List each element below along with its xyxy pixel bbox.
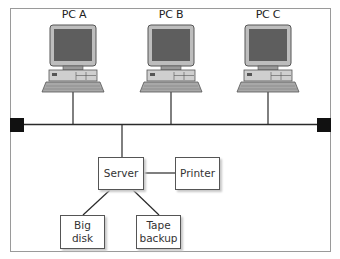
pc-c-label: PC C xyxy=(238,8,298,21)
server-label: Server xyxy=(104,167,138,180)
tape-backup-label-line2: backup xyxy=(140,232,178,245)
big-disk-label-line2: disk xyxy=(72,232,93,245)
pc-b-computer-icon xyxy=(139,22,203,94)
right-terminator xyxy=(317,118,331,132)
server-tape-line xyxy=(133,190,159,215)
pc-b-label: PC B xyxy=(141,8,201,21)
network-diagram: PC A PC B PC C xyxy=(0,0,340,259)
server-bigdisk-line xyxy=(83,190,110,215)
pc-a-label: PC A xyxy=(44,8,104,21)
pc-c-computer-icon xyxy=(236,22,300,94)
big-disk-label-line1: Big xyxy=(74,219,91,232)
big-disk-node: Big disk xyxy=(60,215,105,249)
printer-label: Printer xyxy=(180,167,215,180)
printer-node: Printer xyxy=(175,157,220,190)
left-terminator xyxy=(10,118,24,132)
tape-backup-node: Tape backup xyxy=(136,215,181,249)
pc-a-computer-icon xyxy=(41,22,105,94)
tape-backup-label-line1: Tape xyxy=(146,219,170,232)
server-node: Server xyxy=(98,157,144,190)
